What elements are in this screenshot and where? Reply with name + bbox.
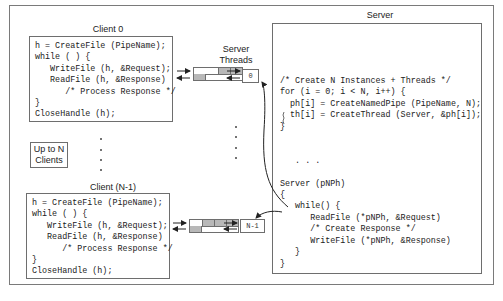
connector-arrows [0,0,503,301]
